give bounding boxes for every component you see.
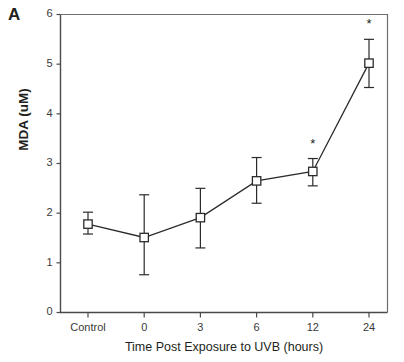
data-point-marker <box>252 177 260 185</box>
data-point-marker <box>309 167 317 175</box>
x-tick-label: 12 <box>307 321 319 333</box>
significance-markers: ** <box>310 16 371 150</box>
data-series-line <box>88 63 369 237</box>
x-tick-label: 3 <box>197 321 203 333</box>
y-tick-label: 4 <box>46 107 52 119</box>
data-point-markers <box>84 59 373 242</box>
significance-asterisk: * <box>366 16 371 31</box>
error-bars <box>83 39 374 274</box>
chart-plot-area: 0123456 Control0361224 ** <box>0 0 404 362</box>
data-point-marker <box>196 213 204 221</box>
x-tick-label: 0 <box>141 321 147 333</box>
y-tick-label: 5 <box>46 57 52 69</box>
plot-frame <box>61 15 388 313</box>
series-line <box>88 63 369 237</box>
figure-panel: A MDA (uM) Time Post Exposure to UVB (ho… <box>0 0 404 362</box>
significance-asterisk: * <box>310 136 315 151</box>
x-axis-ticks: Control0361224 <box>70 313 375 333</box>
data-point-marker <box>365 59 373 67</box>
x-tick-label: Control <box>70 321 105 333</box>
y-tick-label: 2 <box>46 206 52 218</box>
y-tick-label: 1 <box>46 256 52 268</box>
axis-left-bottom <box>61 15 388 313</box>
y-axis-ticks: 0123456 <box>46 7 60 317</box>
data-point-marker <box>84 220 92 228</box>
y-tick-label: 3 <box>46 156 52 168</box>
y-tick-label: 0 <box>46 305 52 317</box>
axis-top-right <box>61 15 388 313</box>
data-point-marker <box>140 233 148 241</box>
x-tick-label: 24 <box>363 321 375 333</box>
x-tick-label: 6 <box>254 321 260 333</box>
y-tick-label: 6 <box>46 7 52 19</box>
